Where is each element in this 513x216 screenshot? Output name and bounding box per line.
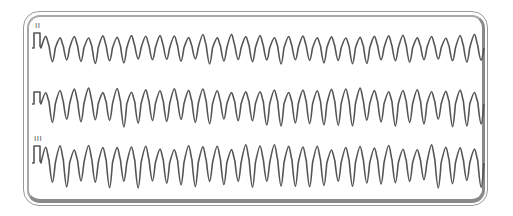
ecg-trace-lead-iii xyxy=(32,145,484,188)
ecg-traces xyxy=(0,0,513,216)
ecg-trace-lead-ii xyxy=(32,33,484,64)
ecg-trace-lead-middle xyxy=(32,88,484,127)
